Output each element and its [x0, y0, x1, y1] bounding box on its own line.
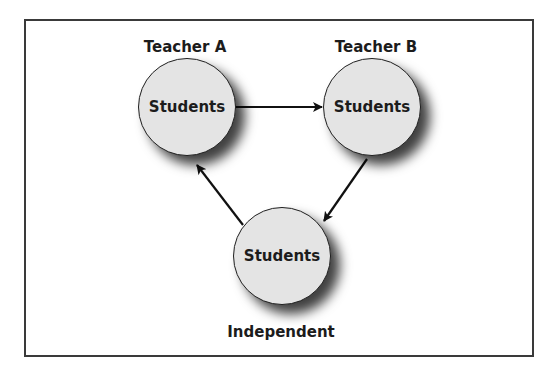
node-independent: Students [233, 207, 331, 305]
node-teacher-b-text: Students [334, 98, 410, 116]
arrow-independent-to-teacher-a [197, 165, 243, 225]
teacher-b-label: Teacher B [335, 38, 417, 56]
teacher-a-label: Teacher A [144, 38, 227, 56]
node-independent-text: Students [244, 247, 320, 265]
node-teacher-b: Students [323, 58, 421, 156]
node-teacher-a-text: Students [149, 98, 225, 116]
independent-label: Independent [227, 323, 335, 341]
arrows-layer [0, 0, 553, 373]
arrow-teacher-b-to-independent [324, 159, 367, 221]
node-teacher-a: Students [138, 58, 236, 156]
